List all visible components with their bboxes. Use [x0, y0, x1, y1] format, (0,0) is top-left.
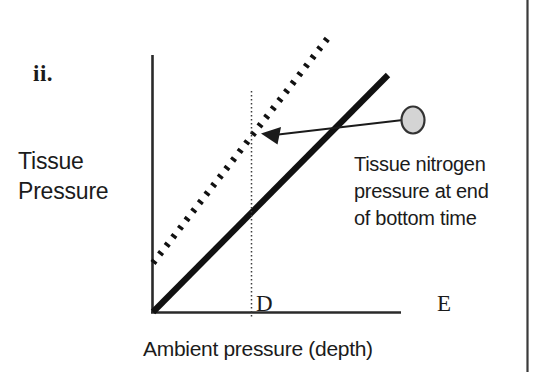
y-axis-title: Tissue Pressure	[18, 146, 108, 206]
figure-container: ii. Tissue Pressure Tissue nitrogen pres…	[0, 0, 542, 372]
x-axis-title: Ambient pressure (depth)	[143, 338, 373, 359]
tissue-pressure-marker-ellipse	[402, 107, 425, 134]
x-axis-tick-label-d: D	[256, 292, 273, 315]
annotation-arrowhead	[261, 127, 281, 145]
annotation-label: Tissue nitrogen pressure at end of botto…	[354, 151, 488, 232]
figure-part-label: ii.	[33, 62, 53, 85]
tissue-nitrogen-line	[153, 34, 331, 263]
x-axis-tick-label-e: E	[437, 292, 451, 315]
ambient-pressure-line	[153, 75, 388, 312]
